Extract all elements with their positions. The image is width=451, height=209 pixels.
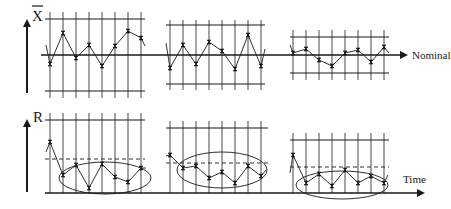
data-point-marker xyxy=(246,164,250,168)
data-point-marker xyxy=(168,66,172,70)
data-point-marker xyxy=(382,181,386,185)
range-charts xyxy=(45,113,389,199)
data-point-marker xyxy=(181,43,185,47)
data-point-marker xyxy=(369,174,373,178)
data-point-marker xyxy=(100,162,104,166)
data-point-marker xyxy=(330,64,334,68)
data-point-marker xyxy=(369,60,373,64)
range-series xyxy=(166,155,266,183)
data-point-marker xyxy=(220,170,224,174)
data-point-marker xyxy=(48,140,52,144)
control-chart-diagram: X R Nominal Time xyxy=(0,0,451,209)
data-point-marker xyxy=(87,43,91,47)
data-point-marker xyxy=(194,62,198,66)
data-point-marker xyxy=(220,49,224,53)
data-point-marker xyxy=(207,176,211,180)
data-point-marker xyxy=(48,62,52,66)
xbar-axis-label: X xyxy=(32,6,43,24)
xbar-label-text: X xyxy=(32,8,43,24)
data-point-marker xyxy=(382,45,386,49)
range-chart-1 xyxy=(45,113,151,194)
nominal-label: Nominal xyxy=(412,49,451,61)
data-point-marker xyxy=(291,153,295,157)
data-point-marker xyxy=(317,58,321,62)
data-point-marker xyxy=(126,29,130,33)
data-point-marker xyxy=(343,168,347,172)
data-point-marker xyxy=(87,186,91,190)
data-point-marker xyxy=(317,172,321,176)
data-point-marker xyxy=(259,174,263,178)
data-point-marker xyxy=(74,56,78,60)
data-point-marker xyxy=(61,173,65,177)
data-point-marker xyxy=(233,67,237,71)
range-axis-label: R xyxy=(33,109,43,125)
data-point-marker xyxy=(304,181,308,185)
data-point-marker xyxy=(330,184,334,188)
range-chart-3 xyxy=(290,133,389,199)
data-point-marker xyxy=(356,181,360,185)
cluster-ellipse xyxy=(296,171,388,199)
data-point-marker xyxy=(113,44,117,48)
range-chart-2 xyxy=(166,121,268,193)
data-point-marker xyxy=(259,64,263,68)
xbar-series xyxy=(46,31,145,66)
data-point-marker xyxy=(233,181,237,185)
data-point-marker xyxy=(139,36,143,40)
data-point-marker xyxy=(126,180,130,184)
data-point-marker xyxy=(246,33,250,37)
data-point-marker xyxy=(61,31,65,35)
xbar-series xyxy=(166,35,265,69)
data-point-marker xyxy=(113,175,117,179)
time-label: Time xyxy=(403,173,426,185)
data-point-marker xyxy=(100,64,104,68)
data-point-marker xyxy=(207,40,211,44)
